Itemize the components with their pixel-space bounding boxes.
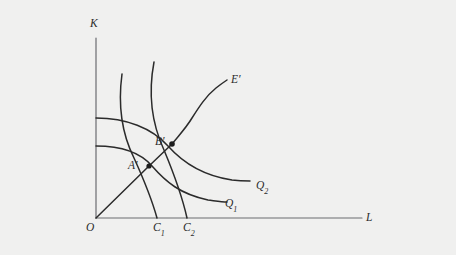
curve-label-q1-subscript: 1: [233, 205, 237, 214]
origin-label: O: [86, 222, 94, 234]
curve-label-expansion-path: E′: [231, 74, 241, 86]
point-b-prime-marker: [169, 141, 175, 147]
tick-label-c2-subscript: 2: [191, 229, 195, 238]
axes-group: [96, 38, 362, 218]
point-a-prime-mark: ′: [135, 159, 138, 171]
curves-group: [96, 62, 250, 218]
y-axis-label: K: [90, 18, 98, 30]
tick-label-c2: C2: [183, 222, 195, 236]
diagram-canvas: [0, 0, 456, 255]
point-label-b-prime: B′: [155, 136, 165, 148]
expansion-path-ray: [96, 144, 172, 218]
curve-label-q2: Q2: [256, 180, 268, 194]
figure-panel: K L O C1 C2 A′ B′ E′ Q2 Q1: [0, 0, 456, 255]
expansion-path-prime-mark: ′: [238, 73, 241, 85]
tick-label-c1-subscript: 1: [161, 229, 165, 238]
point-b-prime-mark: ′: [162, 135, 165, 147]
curve-label-q2-subscript: 2: [264, 187, 268, 196]
tick-label-c1: C1: [153, 222, 165, 236]
curve-label-q1: Q1: [225, 198, 237, 212]
point-a-prime-marker: [146, 163, 151, 168]
expansion-path-curve: [172, 80, 227, 144]
x-axis-label: L: [366, 212, 372, 224]
point-label-a-prime: A′: [128, 160, 138, 172]
